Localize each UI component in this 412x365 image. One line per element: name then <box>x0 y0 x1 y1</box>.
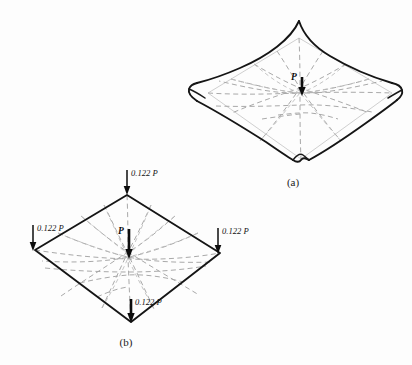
panel-a-load-label: P <box>291 72 297 82</box>
diagram-svg: P (a) <box>0 0 412 365</box>
panel-b-group: P 0.122 P 0.122 P 0.122 P <box>30 168 250 349</box>
panel-a-corner-cusp-details <box>189 89 402 160</box>
panel-b-corner-load-top: 0.122 P <box>124 168 159 195</box>
panel-b-corner-load-right-label: 0.122 P <box>222 226 249 236</box>
panel-b-corner-load-left: 0.122 P <box>30 223 65 251</box>
panel-a-boundary <box>189 21 402 162</box>
panel-b-caption: (b) <box>120 336 133 349</box>
panel-b-corner-load-top-label: 0.122 P <box>131 168 158 178</box>
panel-b-corner-load-left-label: 0.122 P <box>37 223 64 233</box>
panel-a-group: P (a) <box>189 21 402 189</box>
panel-a-caption: (a) <box>287 176 300 189</box>
panel-b-corner-load-right: 0.122 P <box>215 226 250 254</box>
panel-b-corner-load-bottom: 0.122 P <box>127 297 162 323</box>
panel-a-grid-family-2 <box>219 38 369 159</box>
panel-b-corner-load-bottom-label: 0.122 P <box>135 297 162 307</box>
figure-container: P (a) <box>0 0 412 365</box>
panel-b-load-label: P <box>118 226 124 236</box>
